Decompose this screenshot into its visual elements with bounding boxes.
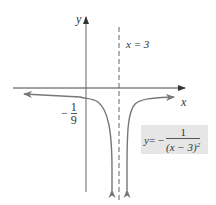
intercept-denominator: 9 <box>71 114 77 126</box>
equation-label: y = − 1 (x − 3)2 <box>141 125 208 154</box>
y-intercept-label: − 1 9 <box>61 101 77 126</box>
x-axis-label: x <box>181 96 186 108</box>
equation-denominator: (x − 3)2 <box>166 139 200 153</box>
intercept-sign: − <box>61 106 68 121</box>
graph-figure: y x x = 3 − 1 9 y = − 1 (x − 3)2 <box>0 0 216 205</box>
intercept-numerator: 1 <box>71 101 77 113</box>
equation-equals: = − <box>149 134 164 146</box>
equation-numerator: 1 <box>180 126 186 138</box>
asymptote-label: x = 3 <box>126 39 149 50</box>
y-axis-label: y <box>76 13 81 25</box>
